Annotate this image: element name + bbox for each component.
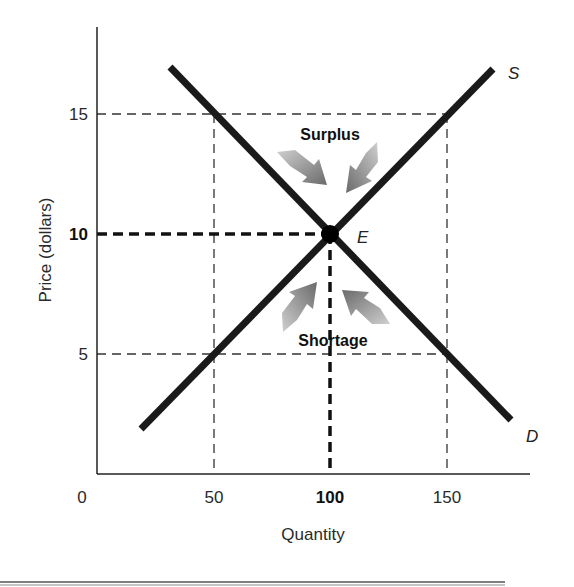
demand-curve xyxy=(170,67,511,420)
supply-demand-chart: Surplus Shortage S D E 15 10 5 0 50 100 … xyxy=(0,0,574,587)
surplus-arrows xyxy=(277,142,378,193)
y-tick-10: 10 xyxy=(69,225,88,244)
y-tick-15: 15 xyxy=(69,105,88,124)
surplus-arrow-right-icon xyxy=(346,142,378,193)
x-axis-label: Quantity xyxy=(281,525,345,544)
surplus-arrow-left-icon xyxy=(277,150,327,185)
shortage-arrow-right-icon xyxy=(342,290,390,324)
x-tick-150: 150 xyxy=(433,488,461,507)
demand-label: D xyxy=(526,427,538,446)
y-tick-5: 5 xyxy=(79,345,88,364)
shortage-arrow-left-icon xyxy=(282,282,317,332)
shortage-label: Shortage xyxy=(298,332,367,349)
x-tick-0: 0 xyxy=(77,488,86,507)
supply-label: S xyxy=(508,64,520,83)
x-tick-50: 50 xyxy=(205,488,224,507)
equilibrium-point xyxy=(321,225,339,243)
supply-curve xyxy=(141,69,493,429)
x-tick-100: 100 xyxy=(316,488,344,507)
surplus-label: Surplus xyxy=(300,126,360,143)
bottom-rule xyxy=(0,582,505,585)
y-axis-label: Price (dollars) xyxy=(36,198,55,303)
shortage-arrows xyxy=(282,282,390,332)
equilibrium-label: E xyxy=(357,228,369,247)
